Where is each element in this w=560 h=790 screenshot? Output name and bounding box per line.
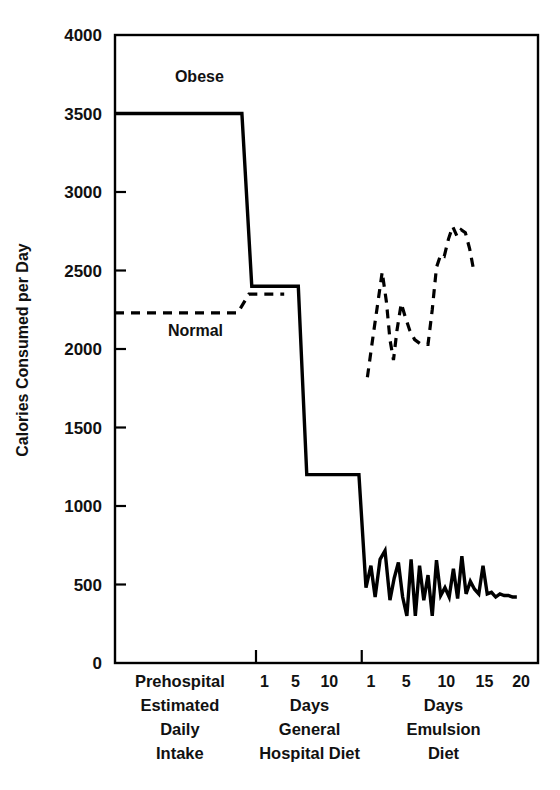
y-tick-label-3500: 3500 xyxy=(64,105,102,124)
y-tick-label-1000: 1000 xyxy=(64,497,102,516)
series-label-normal: Normal xyxy=(168,322,223,339)
x-tick-label-general-hospital-diet-1: 1 xyxy=(260,673,269,690)
x-section-caption-prehospital: Intake xyxy=(156,744,204,762)
y-axis-title: Calories Consumed per Day xyxy=(14,243,31,457)
x-section-caption-general-hospital-diet: General xyxy=(279,720,340,738)
x-tick-label-emulsion-diet-15: 15 xyxy=(476,673,494,690)
y-tick-label-4000: 4000 xyxy=(64,26,102,45)
y-tick-label-3000: 3000 xyxy=(64,183,102,202)
x-tick-label-emulsion-diet-20: 20 xyxy=(512,673,530,690)
x-section-caption-emulsion-diet: Days xyxy=(424,696,463,714)
y-tick-label-0: 0 xyxy=(93,654,102,673)
series-label-obese: Obese xyxy=(175,68,224,85)
x-section-caption-emulsion-diet: Emulsion xyxy=(406,720,480,738)
x-tick-label-emulsion-diet-5: 5 xyxy=(402,673,411,690)
x-section-caption-emulsion-diet: Diet xyxy=(428,744,460,762)
x-section-caption-prehospital: Estimated xyxy=(140,696,219,714)
x-tick-label-emulsion-diet-10: 10 xyxy=(437,673,455,690)
x-section-caption-prehospital: Prehospital xyxy=(135,672,225,690)
chart-figure: 05001000150020002500300035004000 1510151… xyxy=(0,0,560,790)
x-tick-label-emulsion-diet-1: 1 xyxy=(366,673,375,690)
x-section-caption-general-hospital-diet: Hospital Diet xyxy=(259,744,360,762)
calories-consumed-line-chart: 05001000150020002500300035004000 1510151… xyxy=(0,0,560,790)
x-section-caption-prehospital: Daily xyxy=(160,720,200,738)
x-tick-label-general-hospital-diet-10: 10 xyxy=(320,673,338,690)
y-tick-label-500: 500 xyxy=(74,576,102,595)
x-tick-label-general-hospital-diet-5: 5 xyxy=(291,673,300,690)
y-tick-label-1500: 1500 xyxy=(64,419,102,438)
x-section-caption-general-hospital-diet: Days xyxy=(290,696,329,714)
y-tick-label-2500: 2500 xyxy=(64,262,102,281)
y-tick-label-2000: 2000 xyxy=(64,340,102,359)
